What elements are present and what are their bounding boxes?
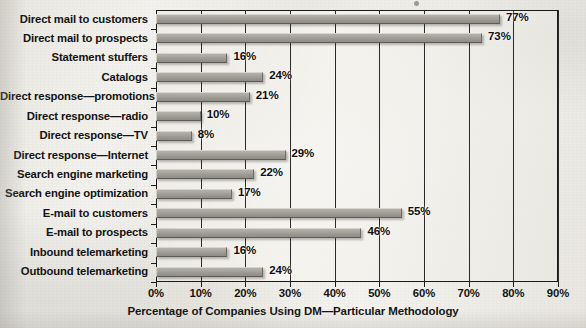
category-label: Search engine marketing	[0, 168, 148, 180]
bar-value-label: 46%	[367, 225, 390, 237]
bar-value-label: 8%	[198, 128, 214, 140]
bar-row: 73%	[156, 29, 558, 47]
bar-value-label: 10%	[207, 108, 230, 120]
scan-edge-shadow-left	[0, 0, 26, 328]
bar[interactable]	[156, 72, 263, 82]
category-label: Inbound telemarketing	[0, 246, 148, 258]
x-tick-label: 80%	[502, 287, 524, 299]
bar[interactable]	[156, 53, 227, 63]
category-label: E-mail to customers	[0, 207, 148, 219]
bar[interactable]	[156, 150, 286, 160]
bar[interactable]	[156, 189, 232, 199]
x-axis-tick	[245, 282, 246, 287]
bar-row: 22%	[156, 165, 558, 183]
bar-value-label: 17%	[238, 186, 261, 198]
category-label: Outbound telemarketing	[0, 265, 148, 277]
category-label: Direct mail to customers	[0, 13, 148, 25]
bar-row: 21%	[156, 88, 558, 106]
bar-row: 17%	[156, 185, 558, 203]
bar-row: 77%	[156, 10, 558, 28]
category-label: Direct response—TV	[0, 129, 148, 141]
bar-row: 55%	[156, 204, 558, 222]
bar-row: 29%	[156, 146, 558, 164]
bar-row: 16%	[156, 243, 558, 261]
bar-row: 8%	[156, 127, 558, 145]
plot-area: 77%73%16%24%21%10%8%29%22%17%55%46%16%24…	[156, 10, 558, 282]
bar-row: 24%	[156, 263, 558, 281]
gridline-90	[558, 10, 559, 282]
bar[interactable]	[156, 208, 402, 218]
x-axis-tick	[513, 282, 514, 287]
x-axis-tick	[335, 282, 336, 287]
bar-value-label: 22%	[260, 166, 283, 178]
bar[interactable]	[156, 131, 192, 141]
bar[interactable]	[156, 92, 250, 102]
category-label: Direct response—radio	[0, 110, 148, 122]
category-label: E-mail to prospects	[0, 226, 148, 238]
bar[interactable]	[156, 228, 361, 238]
x-axis-tick	[290, 282, 291, 287]
x-tick-label: 70%	[458, 287, 480, 299]
bar[interactable]	[156, 169, 254, 179]
x-axis-tick	[424, 282, 425, 287]
bar-value-label: 77%	[506, 11, 529, 23]
bar-value-label: 16%	[233, 50, 256, 62]
x-tick-label: 50%	[368, 287, 390, 299]
bar[interactable]	[156, 247, 227, 257]
x-tick-label: 10%	[190, 287, 212, 299]
category-label: Statement stuffers	[0, 51, 148, 63]
x-axis-title: Percentage of Companies Using DM—Particu…	[0, 305, 586, 317]
bar[interactable]	[156, 14, 500, 24]
category-label: Direct response—promotions	[0, 90, 148, 102]
category-label: Catalogs	[0, 71, 148, 83]
x-axis-tick	[156, 282, 157, 287]
bar-row: 16%	[156, 49, 558, 67]
bar[interactable]	[156, 267, 263, 277]
bar-value-label: 24%	[269, 264, 292, 276]
x-tick-label: 0%	[148, 287, 164, 299]
bar-row: 10%	[156, 107, 558, 125]
bar-value-label: 21%	[256, 89, 279, 101]
bar[interactable]	[156, 33, 482, 43]
bar[interactable]	[156, 111, 201, 121]
x-tick-label: 30%	[279, 287, 301, 299]
bar-row: 24%	[156, 68, 558, 86]
bar-value-label: 16%	[233, 244, 256, 256]
x-tick-label: 90%	[547, 287, 569, 299]
bar-value-label: 55%	[408, 205, 431, 217]
bar-value-label: 29%	[292, 147, 315, 159]
x-tick-label: 60%	[413, 287, 435, 299]
x-axis-line	[156, 281, 558, 282]
x-tick-label: 20%	[234, 287, 256, 299]
x-axis-tick	[379, 282, 380, 287]
bar-value-label: 24%	[269, 69, 292, 81]
paper-speck	[414, 1, 419, 6]
x-axis-tick	[469, 282, 470, 287]
category-label: Direct response—Internet	[0, 149, 148, 161]
category-label: Search engine optimization	[0, 187, 148, 199]
bar-chart: Direct mail to customersDirect mail to p…	[0, 0, 586, 328]
x-axis-tick	[558, 282, 559, 287]
bar-row: 46%	[156, 224, 558, 242]
bar-value-label: 73%	[488, 30, 511, 42]
x-axis-tick	[201, 282, 202, 287]
x-tick-label: 40%	[324, 287, 346, 299]
category-label: Direct mail to prospects	[0, 32, 148, 44]
